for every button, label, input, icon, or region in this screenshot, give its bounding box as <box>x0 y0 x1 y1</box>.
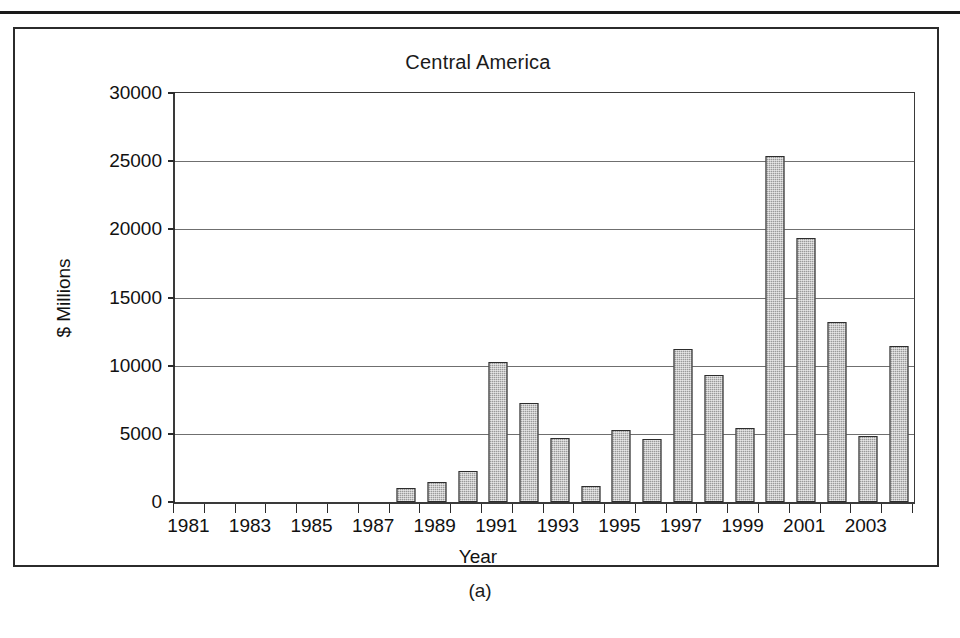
y-axis-tick-mark <box>168 297 175 299</box>
x-axis-tick-label: 2001 <box>783 515 825 537</box>
bar[interactable] <box>674 349 693 502</box>
bar-slot <box>298 93 329 502</box>
y-axis-tick-mark <box>168 433 175 435</box>
x-axis-tick-mark <box>850 504 851 513</box>
bar[interactable] <box>858 436 877 502</box>
bar-slot <box>452 93 483 502</box>
x-axis-tick-mark <box>327 504 328 513</box>
bar[interactable] <box>766 156 785 502</box>
x-axis-tick-label: 1993 <box>537 515 579 537</box>
bar-slot <box>267 93 298 502</box>
bar-slot <box>698 93 729 502</box>
x-axis-tick-mark <box>727 504 728 513</box>
x-axis-tick-mark <box>419 504 420 513</box>
bar[interactable] <box>889 346 908 502</box>
bar[interactable] <box>643 439 662 502</box>
x-axis-tick-mark <box>635 504 636 513</box>
bar-slot <box>729 93 760 502</box>
x-axis-tick-mark <box>481 504 482 513</box>
x-axis-tick-label: 1985 <box>290 515 332 537</box>
bar-slot <box>791 93 822 502</box>
y-axis-tick-mark <box>168 501 175 503</box>
x-axis-tick-mark <box>912 504 913 513</box>
bar-slot <box>391 93 422 502</box>
bar[interactable] <box>612 430 631 502</box>
x-axis-tick-label: 1995 <box>598 515 640 537</box>
bar-slot <box>852 93 883 502</box>
bar[interactable] <box>797 238 816 502</box>
y-axis-tick-mark <box>168 160 175 162</box>
x-axis-tick-label: 1999 <box>722 515 764 537</box>
x-axis-tick-label: 1981 <box>167 515 209 537</box>
x-axis-tick-mark <box>265 504 266 513</box>
bar-slot <box>421 93 452 502</box>
x-axis-tick-mark <box>696 504 697 513</box>
y-axis-title-label: $ Millions <box>53 258 75 337</box>
y-axis-tick-label: 30000 <box>109 82 162 104</box>
x-axis-tick-mark <box>604 504 605 513</box>
x-axis-tick-label: 1983 <box>229 515 271 537</box>
y-axis-tick-label: 15000 <box>109 287 162 309</box>
chart-title: Central America <box>15 51 941 74</box>
x-axis-ticks <box>173 504 915 513</box>
x-axis-tick-mark <box>666 504 667 513</box>
bar-slot <box>175 93 206 502</box>
figure-page: Central America $ Millions 0500010000150… <box>0 0 960 638</box>
y-axis-tick-label: 20000 <box>109 218 162 240</box>
bar-slot <box>637 93 668 502</box>
x-axis-tick-mark <box>573 504 574 513</box>
x-axis-tick-label: 1997 <box>660 515 702 537</box>
bar-slot <box>514 93 545 502</box>
x-axis-tick-mark <box>512 504 513 513</box>
x-axis-tick-label: 1989 <box>414 515 456 537</box>
y-axis-tick-mark <box>168 92 175 94</box>
bar-slot <box>545 93 576 502</box>
bar[interactable] <box>489 362 508 502</box>
x-axis-tick-mark <box>543 504 544 513</box>
bar-slot <box>668 93 699 502</box>
bar-slot <box>483 93 514 502</box>
x-axis-tick-label: 2003 <box>845 515 887 537</box>
x-axis-tick-mark <box>296 504 297 513</box>
x-axis-tick-mark <box>389 504 390 513</box>
bar-slot <box>237 93 268 502</box>
y-axis-tick-label: 0 <box>151 491 162 513</box>
x-axis-tick-mark <box>173 504 174 513</box>
x-axis-title: Year <box>15 546 941 568</box>
x-axis-tick-mark <box>758 504 759 513</box>
bar-slot <box>606 93 637 502</box>
x-axis-tick-label: 1991 <box>475 515 517 537</box>
y-axis-tick-mark <box>168 228 175 230</box>
plot-area: 050001000015000200002500030000 <box>173 92 915 504</box>
x-axis-tick-label: 1987 <box>352 515 394 537</box>
bar-slot <box>206 93 237 502</box>
bar[interactable] <box>828 322 847 502</box>
figure-frame: Central America $ Millions 0500010000150… <box>13 27 939 567</box>
bar[interactable] <box>735 428 754 502</box>
bar-slot <box>760 93 791 502</box>
x-axis-tick-mark <box>820 504 821 513</box>
x-axis-tick-mark <box>235 504 236 513</box>
bar-slot <box>360 93 391 502</box>
bar[interactable] <box>704 375 723 502</box>
x-axis-tick-mark <box>881 504 882 513</box>
x-axis-tick-labels: 1981198319851987198919911993199519971999… <box>173 515 915 541</box>
page-top-rule <box>0 11 960 14</box>
bar[interactable] <box>427 482 446 502</box>
bar-slot <box>883 93 914 502</box>
x-axis-tick-mark <box>204 504 205 513</box>
bar[interactable] <box>550 438 569 502</box>
x-axis-tick-mark <box>450 504 451 513</box>
figure-caption: (a) <box>0 580 960 602</box>
bar[interactable] <box>581 486 600 502</box>
bar-slot <box>575 93 606 502</box>
bar[interactable] <box>396 488 415 502</box>
y-axis-tick-label: 5000 <box>120 423 162 445</box>
y-axis-tick-label: 25000 <box>109 150 162 172</box>
bar[interactable] <box>520 403 539 502</box>
y-axis-title: $ Millions <box>51 92 77 504</box>
x-axis-tick-mark <box>789 504 790 513</box>
x-axis-tick-mark <box>358 504 359 513</box>
bar-slot <box>822 93 853 502</box>
bar[interactable] <box>458 471 477 502</box>
